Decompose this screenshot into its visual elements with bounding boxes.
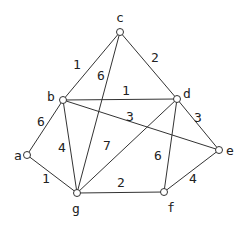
edge-weight-c-d: 2 [151, 50, 159, 65]
edge-d-f [164, 99, 177, 192]
edge-weight-d-e: 3 [194, 110, 202, 125]
node-a [24, 152, 31, 159]
edge-weight-d-g: 7 [103, 138, 111, 153]
edge-b-d [63, 99, 177, 100]
node-label-e: e [226, 143, 234, 158]
node-d [174, 96, 181, 103]
edge-weight-b-e: 3 [126, 109, 134, 124]
node-e [216, 147, 223, 154]
node-c [117, 29, 124, 36]
weights-layer: 1621364736124 [37, 50, 202, 190]
node-label-c: c [116, 10, 124, 25]
edge-weight-b-d: 1 [122, 83, 130, 98]
graph-diagram: 1621364736124 abcdefg [0, 0, 245, 228]
edge-weight-c-g: 6 [97, 68, 105, 83]
edge-weight-d-f: 6 [154, 148, 162, 163]
edge-weight-b-a: 6 [37, 114, 45, 129]
node-label-f: f [167, 200, 175, 215]
edge-weight-f-e: 4 [189, 171, 197, 186]
node-label-g: g [72, 201, 80, 216]
node-g [74, 190, 81, 197]
edge-weight-c-b: 1 [73, 57, 81, 72]
node-f [161, 189, 168, 196]
edge-weight-b-g: 4 [58, 140, 66, 155]
edge-weight-g-f: 2 [117, 175, 125, 190]
edge-c-g [77, 32, 120, 193]
edge-b-e [63, 100, 219, 150]
edges-layer [27, 32, 219, 193]
node-label-a: a [14, 148, 22, 163]
edge-weight-a-g: 1 [42, 171, 50, 186]
edge-a-g [27, 155, 77, 193]
node-label-b: b [47, 89, 55, 104]
edge-c-b [63, 32, 120, 100]
node-label-d: d [183, 86, 191, 101]
edge-g-f [77, 192, 164, 193]
node-b [60, 97, 67, 104]
